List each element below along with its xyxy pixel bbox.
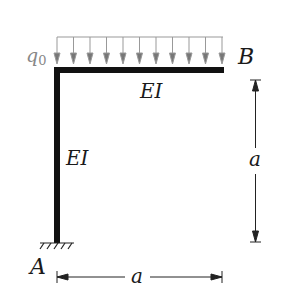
node-label-a: A xyxy=(28,254,46,279)
fixed-support xyxy=(40,243,74,249)
vertical-dimension-label: a xyxy=(249,147,261,171)
distributed-load: q0 xyxy=(26,37,225,68)
column xyxy=(54,67,60,243)
load-arrows xyxy=(54,37,225,64)
frame-diagram: q0 B A EI EI a a xyxy=(0,0,285,293)
node-label-b: B xyxy=(237,44,254,69)
horizontal-dimension-label: a xyxy=(131,264,143,288)
beam-stiffness-label: EI xyxy=(139,79,164,103)
load-label: q0 xyxy=(26,44,46,68)
column-stiffness-label: EI xyxy=(65,146,90,170)
beam xyxy=(54,67,224,73)
